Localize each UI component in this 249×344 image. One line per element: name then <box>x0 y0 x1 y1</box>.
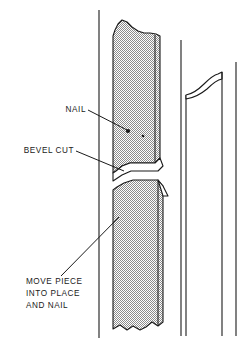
nail-head-small-icon <box>142 135 145 138</box>
right-board <box>181 40 222 336</box>
callout-move-piece-label-line2: INTO PLACE <box>26 289 80 298</box>
callout-bevel-cut-label: BEVEL CUT <box>24 146 74 155</box>
upper-board-face <box>113 20 160 173</box>
siding-repair-illustration: NAIL BEVEL CUT MOVE PIECE INTO PLACE AND… <box>0 0 249 344</box>
callout-nail-label: NAIL <box>66 105 86 114</box>
right-board-scoop-cut <box>186 72 222 99</box>
move-piece-leader-line <box>61 217 119 276</box>
diagram-canvas: NAIL BEVEL CUT MOVE PIECE INTO PLACE AND… <box>0 0 249 344</box>
lower-board <box>113 180 168 330</box>
callout-move-piece-label-line3: AND NAIL <box>26 301 68 310</box>
upper-board <box>113 20 163 181</box>
lower-board-face <box>113 180 163 330</box>
callout-move-piece-label-line1: MOVE PIECE <box>26 277 82 286</box>
